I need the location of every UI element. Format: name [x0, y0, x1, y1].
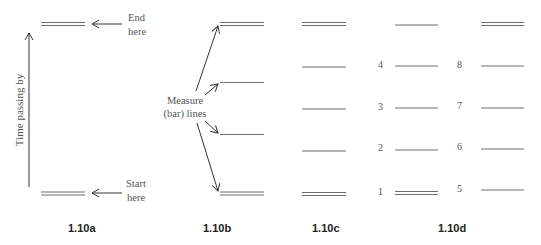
figure-1-10b: Measure (bar) lines 1.10b [164, 23, 264, 235]
double-barline-bottom [220, 192, 264, 195]
figure-1-10a: Time passing by End here Start here 1.10… [13, 12, 146, 234]
measure-number-6: 6 [457, 141, 462, 152]
measure-number-2: 2 [378, 142, 383, 153]
pointer-arrow-icon [196, 26, 218, 91]
start-label-line2: here [127, 192, 145, 203]
end-double-barline [41, 23, 85, 26]
double-barline-top [481, 23, 524, 26]
measure-number-8: 8 [457, 59, 462, 70]
double-barline-top [220, 23, 264, 26]
end-label-line1: End [128, 12, 146, 23]
figure-1-10c: 1.10c [302, 23, 346, 235]
measure-number-7: 7 [457, 100, 462, 111]
measure-number-4: 4 [378, 59, 383, 70]
caption-1-10c: 1.10c [312, 222, 340, 234]
measure-number-1: 1 [378, 186, 383, 197]
pointer-arrow-icon [205, 84, 218, 95]
caption-1-10a: 1.10a [68, 222, 96, 234]
time-axis-label: Time passing by [13, 73, 25, 146]
measure-label-line2: (bar) lines [164, 108, 207, 120]
diagram-canvas: Time passing by End here Start here 1.10… [0, 0, 541, 245]
double-barline-bottom [302, 193, 346, 196]
pointer-arrow-icon [205, 121, 218, 133]
end-label-line2: here [128, 26, 146, 37]
measure-number-5: 5 [457, 183, 462, 194]
pointer-arrow-icon [197, 123, 218, 191]
start-double-barline [41, 192, 85, 195]
start-label-line1: Start [126, 178, 146, 189]
double-barline-bottom [395, 192, 438, 195]
measure-number-3: 3 [378, 101, 383, 112]
double-barline-top [302, 23, 346, 26]
measure-label-line1: Measure [167, 95, 203, 106]
caption-1-10d: 1.10d [438, 222, 466, 234]
caption-1-10b: 1.10b [203, 222, 231, 234]
figure-1-10d: 4 3 2 1 8 7 6 5 1.10d [378, 23, 524, 235]
